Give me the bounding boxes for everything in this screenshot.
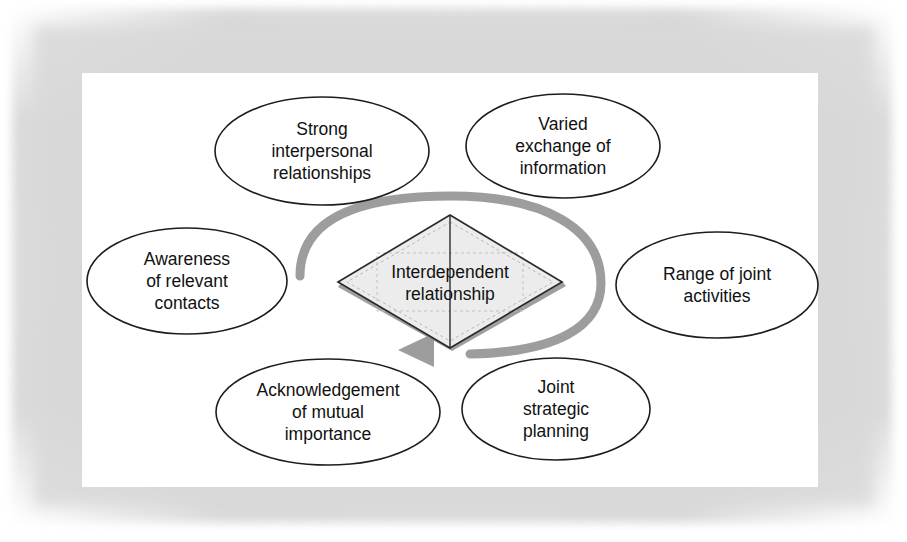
node-label-line2: of mutual xyxy=(292,402,364,422)
node-label-line3: relationships xyxy=(273,163,371,183)
node-joint-strategic-planning[interactable]: Jointstrategicplanning xyxy=(462,358,650,460)
node-range-of-joint-activities[interactable]: Range of jointactivities xyxy=(616,232,818,338)
node-ellipse[interactable] xyxy=(616,232,818,338)
node-label-line2: activities xyxy=(683,286,750,306)
center-label-line1: Interdependent xyxy=(391,262,509,282)
node-label-line1: Varied xyxy=(538,114,587,134)
diagram-canvas: Interdependent relationship Stronginterp… xyxy=(0,0,907,542)
node-label-line3: importance xyxy=(285,424,372,444)
node-label-line2: strategic xyxy=(523,399,589,419)
node-label-line3: information xyxy=(520,158,607,178)
node-label-line3: planning xyxy=(523,421,589,441)
node-label-line1: Range of joint xyxy=(663,264,771,284)
node-label-line2: interpersonal xyxy=(271,141,372,161)
node-label-line1: Joint xyxy=(538,377,575,397)
node-label-line1: Acknowledgement xyxy=(257,380,400,400)
node-label-line3: contacts xyxy=(154,293,219,313)
node-acknowledgement-of-mutual-importance[interactable]: Acknowledgementof mutualimportance xyxy=(216,359,440,465)
node-strong-interpersonal-relationships[interactable]: Stronginterpersonalrelationships xyxy=(215,97,429,205)
node-label-line1: Awareness xyxy=(144,249,231,269)
node-label-line1: Strong xyxy=(296,119,348,139)
center-label-line2: relationship xyxy=(405,284,495,304)
center-diamond: Interdependent relationship xyxy=(338,215,566,351)
node-label-line2: exchange of xyxy=(515,136,610,156)
node-varied-exchange-of-information[interactable]: Variedexchange ofinformation xyxy=(466,94,660,198)
diagram-svg: Interdependent relationship Stronginterp… xyxy=(0,0,907,542)
node-label-line2: of relevant xyxy=(146,271,228,291)
node-awareness-of-relevant-contacts[interactable]: Awarenessof relevantcontacts xyxy=(87,228,287,334)
